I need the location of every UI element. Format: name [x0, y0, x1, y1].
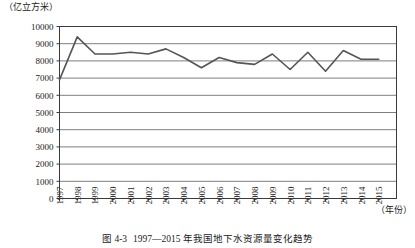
- y-tick-label: 7000: [36, 73, 55, 83]
- y-tick-label: 1000: [36, 177, 55, 187]
- y-tick-label: 2000: [36, 159, 55, 169]
- y-tick-label: 4000: [36, 125, 55, 135]
- y-tick-label: 5000: [36, 108, 55, 118]
- y-tick-label: 10000: [31, 22, 54, 32]
- y-tick-labels: 0100020003000400050006000700080009000100…: [31, 22, 54, 204]
- x-tick-label: 2011: [303, 187, 313, 205]
- y-tick-label: 6000: [36, 91, 55, 101]
- x-tick-label: 2014: [357, 186, 367, 205]
- x-tick-label: 1999: [90, 186, 100, 205]
- y-gridlines: [60, 44, 397, 182]
- y-tick-label: 3000: [36, 142, 55, 152]
- plot-area: 0100020003000400050006000700080009000100…: [0, 0, 415, 248]
- x-tick-label: 2010: [286, 186, 296, 205]
- x-tick-label: 2005: [197, 186, 207, 205]
- y-tick-label: 8000: [36, 56, 55, 66]
- caption-text: 1997—2015 年我国地下水资源量变化趋势: [133, 234, 313, 244]
- x-tick-label: 2012: [321, 187, 331, 205]
- x-tick-label: 2007: [232, 186, 242, 205]
- y-tick-label: 0: [49, 194, 54, 204]
- x-tick-label: 2015: [374, 186, 384, 205]
- x-tick-label: 2009: [268, 186, 278, 205]
- figure-container: （亿立方米） （年份） 0100020003000400050006000700…: [0, 0, 415, 248]
- x-tick-label: 2002: [144, 187, 154, 205]
- x-tick-label: 2008: [250, 186, 260, 205]
- x-tick-label: 2000: [108, 186, 118, 205]
- x-tick-label: 2003: [161, 186, 171, 205]
- y-tick-label: 9000: [36, 39, 55, 49]
- x-tick-label: 2004: [179, 186, 189, 205]
- x-tick-label: 1998: [73, 186, 83, 205]
- x-tick-label: 2013: [339, 186, 349, 205]
- x-tick-label: 2001: [126, 187, 136, 205]
- figure-caption: 图 4-31997—2015 年我国地下水资源量变化趋势: [0, 233, 415, 246]
- line-chart-svg: 0100020003000400050006000700080009000100…: [0, 0, 415, 248]
- x-tick-label: 2006: [215, 186, 225, 205]
- x-tick-labels: 1997199819992000200120022003200420052006…: [55, 186, 384, 205]
- caption-number: 图 4-3: [102, 234, 127, 244]
